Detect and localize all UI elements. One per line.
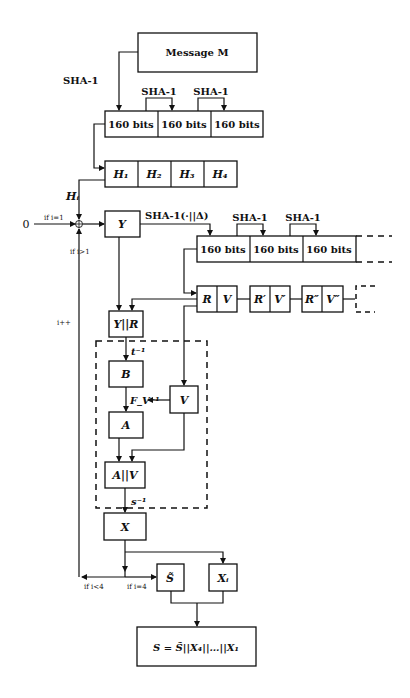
y-to-bits2-arrow	[140, 224, 210, 235]
rv-to-v-arrow	[184, 306, 197, 385]
v-label-1: V	[223, 293, 233, 306]
sha1-label-3: SHA-1	[232, 212, 268, 223]
v-label-3: V″	[326, 293, 340, 306]
b-label: B	[120, 368, 130, 381]
bits2-to-r-arrow	[184, 249, 197, 293]
diagram: Message M SHA-1 160 bits 160 bits 160 bi…	[0, 0, 410, 698]
h-block-3: H₃	[178, 168, 194, 181]
h-i-label: Hᵢ	[65, 190, 79, 203]
bits2-block-2: 160 bits	[253, 244, 299, 255]
if-i-lt-4-label: if i<4	[84, 583, 104, 591]
bits-block-1: 160 bits	[108, 119, 154, 130]
bits2-block-1: 160 bits	[200, 244, 246, 255]
sha1-label-top: SHA-1	[63, 75, 99, 86]
xi-label: Xᵢ	[216, 572, 229, 585]
merge-line	[171, 591, 223, 603]
v-box-label: V	[180, 394, 190, 407]
r-label-2: R′	[253, 293, 266, 306]
if-i-eq-4-label: if i=4	[127, 583, 147, 591]
bits2-block-3: 160 bits	[306, 244, 352, 255]
sha1-loop-1	[146, 98, 172, 111]
h-block-2: H₂	[145, 168, 161, 181]
bits-block-3: 160 bits	[214, 119, 260, 130]
message-label: Message M	[165, 47, 228, 58]
sha1-label-4: SHA-1	[285, 212, 321, 223]
y-label: Y	[118, 218, 127, 231]
sha1-delta-label: SHA-1(·||Δ)	[145, 210, 209, 222]
sha1-label-2: SHA-1	[193, 86, 229, 97]
v-label-2: V′	[274, 293, 286, 306]
rv-continuation	[356, 286, 375, 312]
yr-label: Y||R	[114, 318, 139, 331]
if-i-gt-1-label: if i>1	[70, 248, 90, 256]
t-inverse-label: t⁻¹	[131, 346, 145, 357]
bits-block-2: 160 bits	[161, 119, 207, 130]
r-label-1: R	[201, 293, 211, 306]
sha1-loop-4	[290, 224, 316, 236]
sha1-loop-3	[237, 224, 263, 236]
message-to-bits-arrow	[119, 52, 138, 110]
x-to-xi-arrow	[125, 552, 223, 563]
sha1-label-1: SHA-1	[141, 86, 177, 97]
zero-label: 0	[23, 218, 30, 231]
s-inverse-label: s⁻¹	[131, 496, 146, 507]
bits-to-h-arrow	[94, 124, 105, 168]
av-label: A||V	[111, 469, 139, 482]
r-label-3: R″	[304, 293, 319, 306]
r-to-yr-arrow	[132, 299, 197, 310]
i-increment-label: i++	[57, 319, 71, 327]
if-i-eq-1-label: if i=1	[44, 214, 64, 222]
h-block-1: H₁	[112, 168, 128, 181]
h-block-4: H₄	[211, 168, 227, 181]
a-label: A	[121, 419, 131, 432]
result-label: S = S̃||X₄||…||X₁	[153, 642, 239, 654]
sha1-loop-2	[198, 98, 224, 111]
s-tilde-label: S̃	[166, 572, 174, 585]
h-to-xor-arrow	[79, 180, 105, 219]
x-label: X	[120, 521, 130, 534]
